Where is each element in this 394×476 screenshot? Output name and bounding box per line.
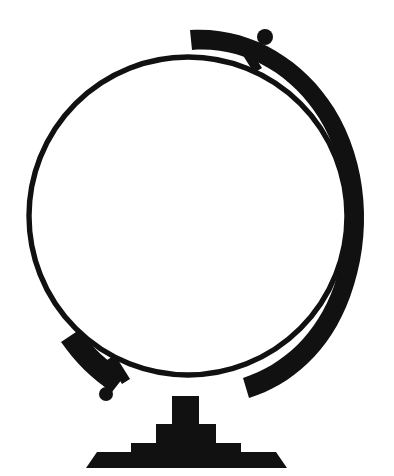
globe-bottom-axis-knob-icon <box>99 387 113 401</box>
globe-stand-tier2-icon <box>156 424 216 443</box>
globe-stand-stem-icon <box>172 396 199 424</box>
globe-stand-tier3-icon <box>131 443 241 452</box>
globe-silhouette-artwork <box>0 0 394 476</box>
globe-artboard: Globe Silhouette <box>0 0 394 476</box>
globe-stand-base-icon <box>86 452 287 468</box>
globe-top-axis-knob-icon <box>257 29 273 45</box>
